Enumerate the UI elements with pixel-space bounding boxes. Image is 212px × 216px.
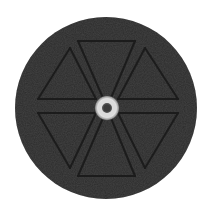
center-dot [104, 105, 111, 112]
disc-image [0, 0, 212, 216]
